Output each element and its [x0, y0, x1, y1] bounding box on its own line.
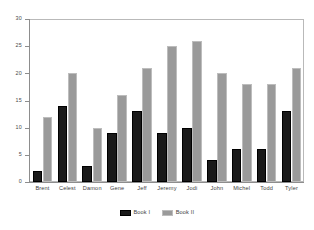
- bar-damon-book-ii: [93, 128, 103, 182]
- bar-group: [279, 19, 304, 182]
- y-axis-tick: [25, 128, 29, 129]
- x-axis-line: [29, 182, 304, 183]
- legend-item[interactable]: Book II: [162, 210, 194, 216]
- bar-gene-book-ii: [117, 95, 127, 182]
- bar-group: [229, 19, 254, 182]
- x-axis-tick-label: Jeff: [130, 186, 155, 192]
- y-axis-tick-label: 25: [16, 43, 22, 48]
- x-axis-tick-label: Jodi: [179, 186, 204, 192]
- x-axis-tick-label: Damon: [80, 186, 105, 192]
- bar-john-book-i: [207, 160, 217, 182]
- bar-jeremy-book-i: [157, 133, 167, 182]
- legend-label: Book I: [133, 210, 150, 216]
- y-axis-tick-label: 30: [16, 16, 22, 21]
- chart-legend: Book IBook II: [0, 210, 314, 216]
- bar-group: [105, 19, 130, 182]
- bar-jodi-book-i: [182, 128, 192, 182]
- x-axis-tick-label: Jeremy: [155, 186, 180, 192]
- bar-gene-book-i: [107, 133, 117, 182]
- bar-group: [130, 19, 155, 182]
- y-axis-tick-label: 0: [19, 179, 22, 184]
- y-axis-tick: [25, 101, 29, 102]
- bar-jodi-book-ii: [192, 41, 202, 182]
- x-axis-tick-label: Tyler: [279, 186, 304, 192]
- x-axis-tick-label: Todd: [254, 186, 279, 192]
- bar-jeremy-book-ii: [167, 46, 177, 182]
- bar-tyler-book-ii: [292, 68, 302, 182]
- bar-brent-book-i: [33, 171, 43, 182]
- bar-john-book-ii: [217, 73, 227, 182]
- bar-chart: 051015202530 BrentCelestDamonGeneJeffJer…: [0, 0, 314, 230]
- bar-jeff-book-i: [132, 111, 142, 182]
- legend-item[interactable]: Book I: [120, 210, 150, 216]
- bar-damon-book-i: [82, 166, 92, 182]
- x-axis-tick-label: Gene: [105, 186, 130, 192]
- y-axis-tick-label: 10: [16, 125, 22, 130]
- bar-group: [254, 19, 279, 182]
- bar-todd-book-ii: [267, 84, 277, 182]
- y-axis-tick: [25, 19, 29, 20]
- bars-container: [30, 19, 304, 182]
- legend-swatch-icon: [120, 210, 131, 216]
- y-axis-tick: [25, 155, 29, 156]
- legend-label: Book II: [176, 210, 194, 216]
- y-axis-tick: [25, 182, 29, 183]
- bar-todd-book-i: [257, 149, 267, 182]
- x-axis-tick-label: John: [204, 186, 229, 192]
- bar-jeff-book-ii: [142, 68, 152, 182]
- bar-michel-book-ii: [242, 84, 252, 182]
- x-axis-tick-label: Celest: [55, 186, 80, 192]
- y-axis-tick: [25, 46, 29, 47]
- bar-michel-book-i: [232, 149, 242, 182]
- bar-group: [55, 19, 80, 182]
- bar-group: [204, 19, 229, 182]
- y-axis-tick-label: 15: [16, 98, 22, 103]
- bar-brent-book-ii: [43, 117, 53, 182]
- y-axis-tick-label: 20: [16, 71, 22, 76]
- x-axis-tick-label: Michel: [229, 186, 254, 192]
- bar-group: [30, 19, 55, 182]
- bar-tyler-book-i: [282, 111, 292, 182]
- bar-celest-book-i: [58, 106, 68, 182]
- bar-group: [179, 19, 204, 182]
- bar-group: [80, 19, 105, 182]
- y-axis-tick-label: 5: [19, 152, 22, 157]
- bar-celest-book-ii: [68, 73, 78, 182]
- y-axis-tick: [25, 73, 29, 74]
- bar-group: [155, 19, 180, 182]
- x-axis-tick-label: Brent: [30, 186, 55, 192]
- legend-swatch-icon: [162, 210, 173, 216]
